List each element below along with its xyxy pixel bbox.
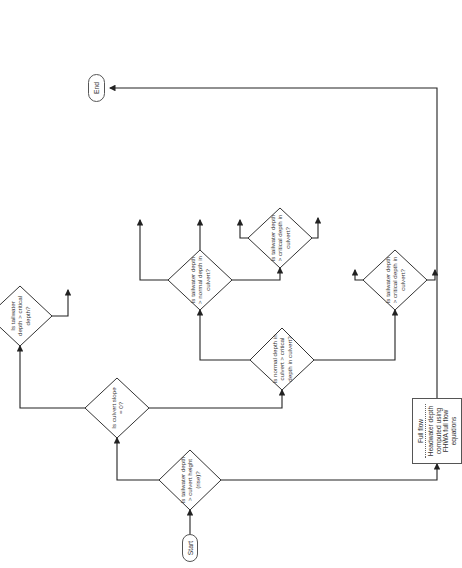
decision-horizontal: Is culvert slope = 0? xyxy=(102,386,132,430)
decision-tw-critical-horizontal: Is tailwater depth > critical depth? xyxy=(2,294,38,338)
decision-submerged: Is tailwater depth > culvert height (ris… xyxy=(168,454,212,506)
full-flow-body: Headwater depth computed using FHWA full… xyxy=(427,401,457,461)
full-flow-title: Full flow xyxy=(417,404,427,458)
decision-tw-critical-mild: Is tailwater depth > critical depth in c… xyxy=(258,212,302,264)
decision-tw-critical-steep: Is tailwater depth > critical depth in c… xyxy=(373,254,417,306)
process-full-flow: Full flow Headwater depth computed using… xyxy=(412,398,462,464)
decision-subcritical: Is normal depth in culvert > critical de… xyxy=(258,332,306,386)
decision-tw-normal: Is tailwater depth > normal depth in cul… xyxy=(178,254,222,306)
